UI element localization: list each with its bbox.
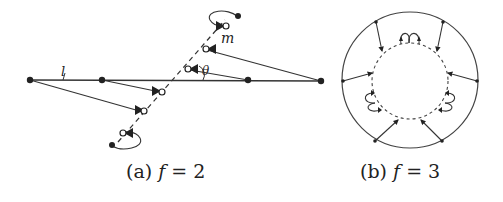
node [318, 78, 324, 84]
caption-b: (b) f = 3 [360, 160, 440, 182]
label-theta: θ [202, 64, 210, 78]
spoke [375, 120, 398, 141]
segment [190, 70, 248, 80]
bottom-loop [109, 128, 141, 149]
caption-a: (a) f = 2 [126, 160, 205, 182]
top-loop [209, 11, 241, 31]
robot-marker [185, 64, 198, 74]
label-m: m [221, 30, 234, 46]
outer-circle [342, 12, 478, 148]
caption-a-prefix: (a) [126, 160, 152, 182]
panel-a-diagram: l m θ [27, 11, 324, 149]
inner-dashed-circle [372, 43, 448, 119]
robot-marker [152, 86, 165, 96]
spoke [343, 73, 372, 81]
caption-b-var: f [393, 160, 400, 182]
robot-marker [135, 105, 147, 115]
spoke [437, 22, 443, 51]
node [99, 77, 105, 83]
top-double-loop [399, 33, 421, 44]
caption-b-prefix: (b) [360, 160, 387, 182]
label-l: l [61, 64, 65, 79]
node [27, 77, 33, 83]
node [245, 77, 251, 83]
spoke [421, 120, 442, 141]
right-double-loop [438, 90, 455, 113]
panel-b-diagram [341, 12, 479, 148]
line-l [30, 80, 321, 81]
caption-b-eq: = 3 [406, 160, 440, 182]
robot-marker [203, 44, 216, 54]
caption-a-eq: = 2 [171, 160, 205, 182]
left-double-loop [365, 90, 382, 113]
caption-a-var: f [158, 160, 165, 182]
spoke [448, 73, 477, 81]
segment [102, 80, 160, 92]
spoke [376, 22, 382, 51]
